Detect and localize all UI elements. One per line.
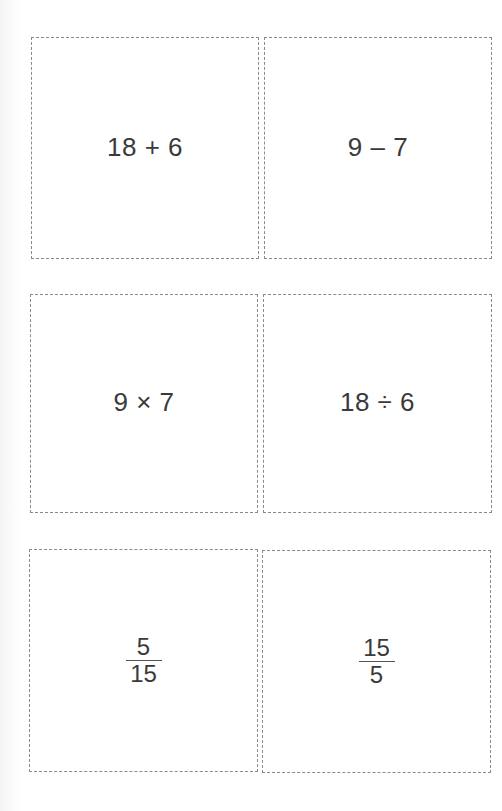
fraction-denominator: 5 (366, 662, 387, 687)
card-multiplication: 9 × 7 (30, 294, 258, 513)
card-addition: 18 + 6 (31, 37, 259, 259)
fraction-numerator: 15 (359, 636, 394, 661)
card-division: 18 ÷ 6 (263, 294, 492, 513)
fraction-numerator: 5 (133, 635, 154, 660)
expression-text: 9 – 7 (348, 132, 408, 163)
card-fraction-15-over-5: 15 5 (262, 550, 491, 773)
expression-text: 18 ÷ 6 (340, 387, 415, 418)
fraction-denominator: 15 (126, 661, 161, 686)
card-fraction-5-over-15: 5 15 (29, 549, 258, 772)
worksheet-page: 18 + 6 9 – 7 9 × 7 18 ÷ 6 5 15 15 5 (0, 0, 502, 811)
expression-text: 9 × 7 (113, 387, 174, 418)
fraction: 5 15 (126, 635, 162, 686)
fraction: 15 5 (359, 636, 395, 687)
expression-text: 18 + 6 (107, 132, 183, 163)
card-subtraction: 9 – 7 (264, 37, 492, 259)
